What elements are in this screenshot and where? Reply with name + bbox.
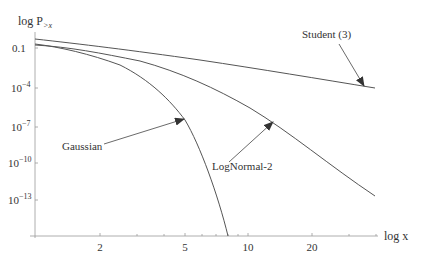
annotation-label-gaussian: Gaussian xyxy=(62,140,103,152)
y-tick-label: 10−13 xyxy=(8,192,32,206)
x-tick-labels: 2 5 10 20 xyxy=(97,241,318,253)
y-tick-label: 10−10 xyxy=(8,155,32,169)
series-lognormal-2 xyxy=(35,45,375,196)
x-ticks xyxy=(100,233,376,236)
y-tick-label: 10−4 xyxy=(11,80,31,94)
annotation-arrow-student xyxy=(339,44,364,86)
x-axis-label: log x xyxy=(384,229,408,243)
annotation-label-lognormal: LogNormal-2 xyxy=(212,160,272,172)
x-tick-label: 20 xyxy=(307,241,319,253)
x-tick-label: 2 xyxy=(97,241,103,253)
annotation-arrow-gaussian xyxy=(104,119,184,144)
y-axis-label: log P>x xyxy=(18,14,52,30)
y-ticks xyxy=(35,48,38,200)
y-tick-labels: 0.1 10−4 10−7 10−10 10−13 xyxy=(8,42,32,206)
x-tick-label: 10 xyxy=(243,241,255,253)
x-tick-label: 5 xyxy=(182,241,188,253)
series-student-3 xyxy=(35,39,375,88)
annotation-arrow-lognormal xyxy=(229,122,273,162)
chart: 0.1 10−4 10−7 10−10 10−13 2 5 10 20 log … xyxy=(0,0,423,260)
y-tick-label: 0.1 xyxy=(12,42,26,54)
annotation-label-student: Student (3) xyxy=(302,28,352,41)
y-tick-label: 10−7 xyxy=(11,119,31,133)
